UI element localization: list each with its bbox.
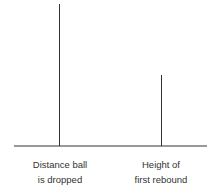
label-first-rebound-line1: Height of: [111, 157, 211, 172]
label-distance-dropped-line1: Distance ball: [10, 157, 110, 172]
label-distance-dropped-line2: is dropped: [10, 172, 110, 187]
label-first-rebound-line2: first rebound: [111, 172, 211, 187]
label-first-rebound: Height of first rebound: [111, 157, 211, 187]
label-distance-dropped: Distance ball is dropped: [10, 157, 110, 187]
